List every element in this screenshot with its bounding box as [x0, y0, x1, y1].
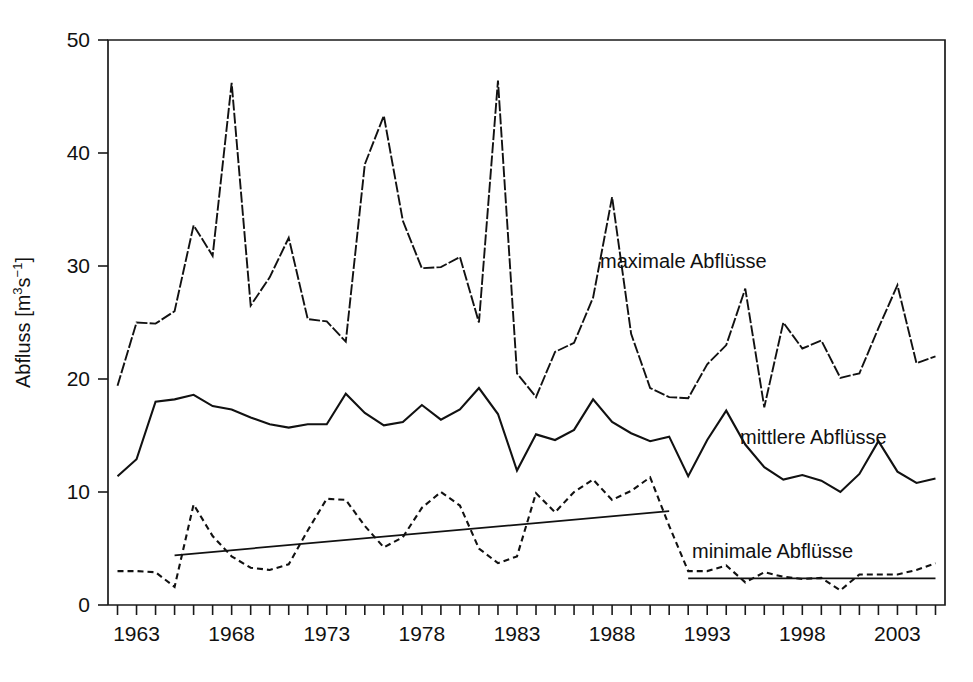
x-tick-label: 1973 — [303, 622, 350, 645]
plot-frame — [108, 40, 945, 605]
y-tick-label: 30 — [67, 254, 90, 277]
svg-text:Abfluss [m3s−1]: Abfluss [m3s−1] — [10, 257, 34, 388]
y-tick-label: 20 — [67, 367, 90, 390]
chart-figure: 0102030405019631968197319781983198819931… — [0, 0, 973, 682]
x-tick-label: 1963 — [113, 622, 160, 645]
x-tick-label: 2003 — [874, 622, 921, 645]
x-tick-label: 1968 — [208, 622, 255, 645]
y-tick-label: 50 — [67, 28, 90, 51]
series-maximale — [118, 81, 936, 408]
chart-svg: 0102030405019631968197319781983198819931… — [0, 0, 973, 682]
x-tick-label: 1983 — [494, 622, 541, 645]
y-tick-label: 10 — [67, 480, 90, 503]
series-minimale — [118, 477, 936, 590]
x-tick-label: 1993 — [684, 622, 731, 645]
annotation-dash-dot: maximale Abflüsse — [600, 250, 767, 272]
minimale-trend-1 — [175, 511, 670, 555]
x-tick-label: 1978 — [399, 622, 446, 645]
x-tick-label: 1998 — [779, 622, 826, 645]
annotation-dashed: minimale Abflüsse — [692, 540, 853, 562]
y-tick-label: 0 — [78, 593, 90, 616]
y-tick-label: 40 — [67, 141, 90, 164]
x-tick-label: 1988 — [589, 622, 636, 645]
y-axis-title: Abfluss [m3s−1] — [10, 257, 34, 388]
annotation-solid: mittlere Abflüsse — [740, 426, 887, 448]
